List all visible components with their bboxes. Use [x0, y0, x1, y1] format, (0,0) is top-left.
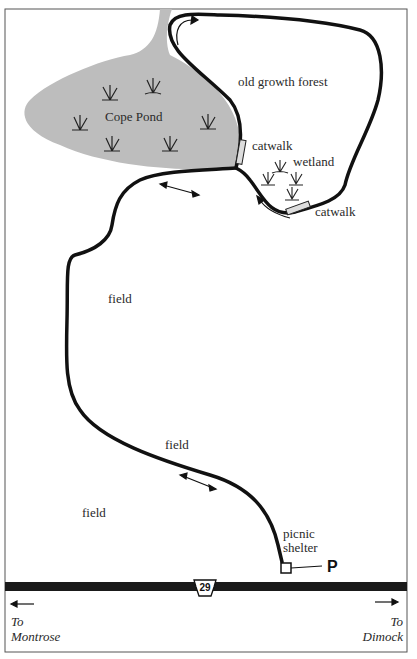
west-direction: To Montrose: [11, 614, 60, 644]
shelter-label: shelter: [283, 541, 318, 554]
field-label-1: field: [108, 292, 132, 305]
catwalk-label-1: catwalk: [252, 139, 292, 152]
east-place: Dimock: [363, 629, 403, 644]
west-place: Montrose: [11, 629, 60, 644]
forest-label: old growth forest: [238, 75, 328, 88]
west-to: To: [11, 614, 60, 629]
road-arrows: [11, 599, 398, 607]
east-to: To: [363, 614, 403, 629]
wetland-label: wetland: [293, 155, 334, 168]
picnic-label: picnic: [283, 527, 315, 540]
parking-label: P: [327, 558, 338, 576]
parking-leader: [291, 566, 322, 568]
main-trail: [67, 168, 283, 562]
picnic-shelter-icon: [281, 563, 291, 573]
field-label-2: field: [165, 438, 189, 451]
field-label-3: field: [82, 506, 106, 519]
route-number: 29: [197, 582, 213, 593]
cope-pond: [24, 9, 240, 169]
catwalk-label-2: catwalk: [315, 205, 355, 218]
cope-pond-label: Cope Pond: [105, 110, 162, 123]
east-direction: To Dimock: [363, 614, 403, 644]
trail-map: [0, 0, 417, 659]
